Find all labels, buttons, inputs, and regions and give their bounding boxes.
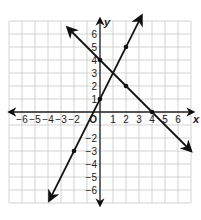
y-tick-label: −4 bbox=[86, 159, 98, 170]
x-tick-label: −6 bbox=[16, 114, 28, 125]
x-tick-label: −5 bbox=[29, 114, 41, 125]
data-point bbox=[98, 58, 103, 63]
data-point bbox=[124, 84, 129, 89]
x-tick-label: 2 bbox=[123, 114, 129, 125]
y-tick-label: −3 bbox=[86, 146, 98, 157]
data-point bbox=[98, 97, 103, 102]
y-tick-label: −6 bbox=[86, 185, 98, 196]
y-axis-label: y bbox=[103, 16, 111, 28]
x-tick-label: −3 bbox=[55, 114, 67, 125]
y-tick-label: 3 bbox=[91, 68, 97, 79]
x-tick-label: −2 bbox=[68, 114, 80, 125]
x-tick-label: 4 bbox=[149, 114, 155, 125]
coordinate-plane: −6−5−4−3−2123456654321−2−3−4−5−6Oxy bbox=[0, 0, 201, 220]
data-point bbox=[124, 45, 129, 50]
y-tick-label: 2 bbox=[91, 81, 97, 92]
y-tick-label: 1 bbox=[91, 94, 97, 105]
y-tick-label: −2 bbox=[86, 133, 98, 144]
data-point bbox=[150, 110, 155, 115]
y-tick-label: −5 bbox=[86, 172, 98, 183]
y-tick-label: 6 bbox=[91, 29, 97, 40]
x-tick-label: −4 bbox=[42, 114, 54, 125]
data-point bbox=[72, 149, 77, 154]
x-tick-label: 3 bbox=[136, 114, 142, 125]
x-tick-label: 1 bbox=[110, 114, 116, 125]
x-axis-label: x bbox=[192, 113, 200, 125]
x-tick-label: 6 bbox=[175, 114, 181, 125]
